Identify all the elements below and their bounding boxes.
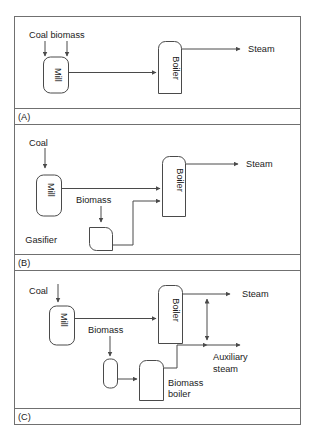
panel-b-mill-label: Mill [46, 183, 56, 197]
panel-b-boiler-label: Boiler [175, 168, 185, 192]
process-flow-diagram-figure: Coal biomass Mill Boiler Steam (A) Coal … [0, 0, 318, 439]
panel-b-biomass-label: Biomass [76, 195, 112, 205]
panel-b: Coal Mill Biomass Gasifier Boiler Steam [15, 125, 301, 255]
panel-c-aux-steam-label-line1: Auxiliary [213, 352, 248, 362]
panel-a-tag-band: (A) [15, 109, 301, 125]
panel-tag-c: (C) [18, 412, 31, 422]
panel-b-gasifier-label: Gasifier [25, 235, 57, 245]
figure-canvas: Coal biomass Mill Boiler Steam (A) Coal … [0, 0, 318, 439]
panel-b-steam-label: Steam [246, 159, 273, 169]
panel-c-feeder-shape [104, 359, 118, 388]
panel-c-biomass-label: Biomass [88, 325, 124, 335]
panel-a-steam-label: Steam [248, 44, 275, 54]
panel-b-input-label: Coal [29, 138, 48, 148]
panel-a-boiler-label: Boiler [171, 56, 181, 80]
panel-c-tag-band: (C) [15, 409, 301, 425]
panel-c-aux-steam-label-line2: steam [213, 364, 238, 374]
panel-tag-b: (B) [18, 258, 30, 268]
panel-c-mill-label: Mill [59, 313, 69, 327]
panel-tag-a: (A) [18, 112, 30, 122]
panel-c-boiler-label: Boiler [171, 298, 181, 322]
panel-a-input-label: Coal biomass [29, 30, 85, 40]
panel-c-biomass-boiler-label-line2: boiler [168, 389, 190, 399]
panel-c-tag-band-border [15, 409, 301, 425]
panel-b-gasifier-shape [90, 228, 113, 251]
panel-b-arrow-gasifier-to-boiler [113, 201, 161, 245]
panel-b-tag-band-border [15, 255, 301, 271]
panel-a-mill-label: Mill [53, 68, 63, 82]
panel-a-tag-band-border [15, 109, 301, 125]
panel-c-biomass-boiler-label-line1: Biomass [168, 378, 204, 388]
panel-c-arrow-biomass-boiler-to-aux [164, 345, 208, 368]
panel-c-input-label: Coal [29, 286, 48, 296]
panel-c-steam-label: Steam [242, 289, 269, 299]
panel-b-tag-band: (B) [15, 255, 301, 271]
panel-c-biomass-boiler-shape [140, 361, 164, 401]
panel-a: Coal biomass Mill Boiler Steam [15, 17, 301, 109]
panel-c: Coal Mill Biomass Biomass boiler Boiler … [15, 271, 301, 409]
